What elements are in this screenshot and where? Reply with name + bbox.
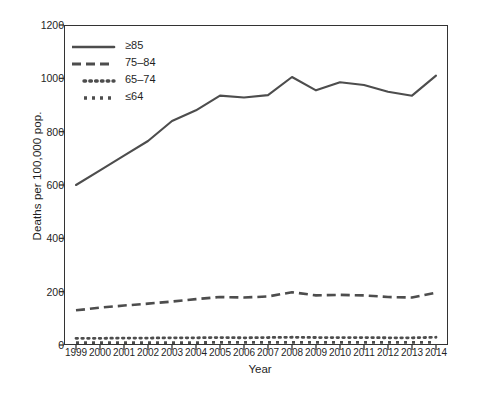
chart-legend: ≥8575–8465–74≤64 bbox=[72, 36, 192, 104]
legend-label: ≥85 bbox=[118, 39, 143, 51]
series-line-2 bbox=[76, 337, 436, 338]
legend-item: 65–74 bbox=[72, 70, 192, 87]
legend-key-dashdot-icon bbox=[72, 90, 118, 102]
legend-key-dashed-icon bbox=[72, 56, 118, 68]
legend-item: ≤64 bbox=[72, 87, 192, 104]
legend-item: 75–84 bbox=[72, 53, 192, 70]
legend-label: 65–74 bbox=[118, 73, 156, 85]
legend-key-solid-icon bbox=[72, 39, 118, 51]
legend-label: ≤64 bbox=[118, 90, 143, 102]
legend-key-dotted-icon bbox=[72, 73, 118, 85]
legend-item: ≥85 bbox=[72, 36, 192, 53]
series-line-1 bbox=[76, 292, 436, 310]
chart-figure: Deaths per 100,000 pop. Year 02004006008… bbox=[0, 0, 482, 394]
legend-label: 75–84 bbox=[118, 56, 156, 68]
